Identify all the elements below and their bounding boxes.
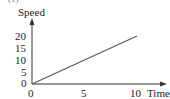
y-tick: 20 [15, 30, 27, 42]
x-tick: 10 [130, 87, 142, 99]
x-axis-label: Time [147, 87, 170, 99]
speed-line [32, 36, 137, 84]
x-tick: 5 [81, 87, 87, 99]
y-tick: 10 [15, 54, 27, 66]
y-axis-arrow-icon [30, 18, 35, 25]
x-tick: 0 [28, 87, 34, 99]
y-axis-label: Speed [18, 6, 45, 18]
x-axis-arrow-icon [160, 82, 167, 87]
speed-time-chart: Speed Time 20 15 10 5 0 0 5 10 [0, 0, 170, 99]
y-tick: 0 [21, 77, 27, 89]
y-tick: 15 [15, 42, 27, 54]
